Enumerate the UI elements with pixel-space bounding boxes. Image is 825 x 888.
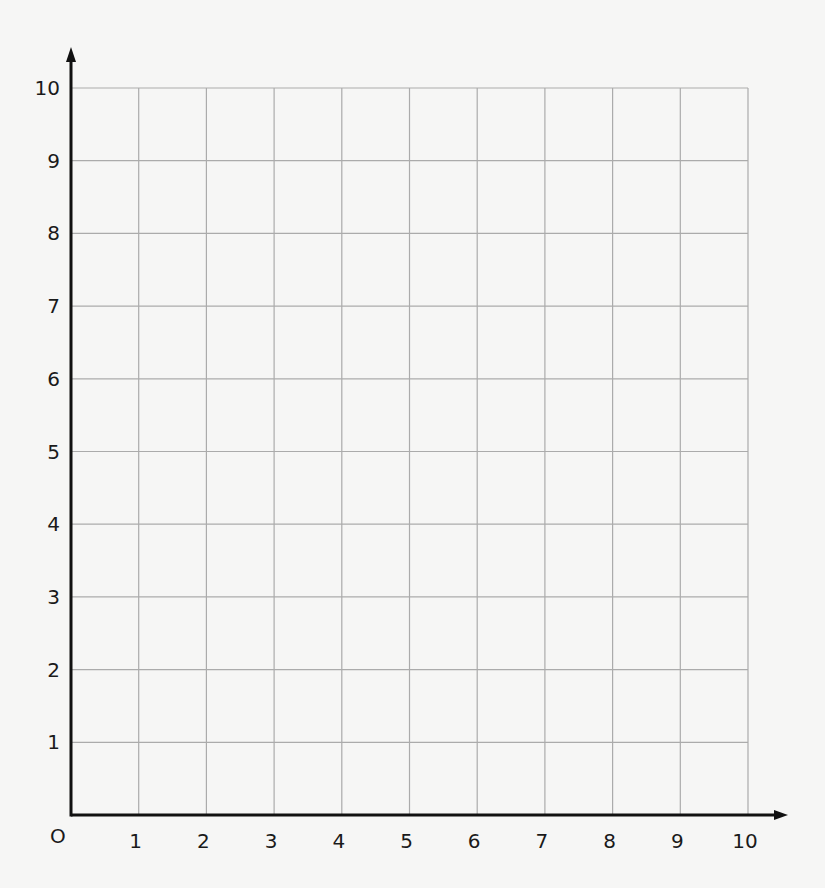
y-tick-label: 5 bbox=[47, 440, 60, 464]
x-tick-label: 1 bbox=[129, 829, 142, 853]
gridlines bbox=[71, 88, 748, 815]
coordinate-grid-figure: 12345678910 12345678910 O bbox=[0, 0, 825, 888]
y-tick-label: 4 bbox=[47, 512, 60, 536]
x-tick-label: 9 bbox=[671, 829, 684, 853]
y-tick-label: 6 bbox=[47, 367, 60, 391]
y-tick-label: 7 bbox=[47, 294, 60, 318]
x-tick-label: 7 bbox=[536, 829, 549, 853]
y-tick-label: 2 bbox=[47, 658, 60, 682]
chart-canvas: 12345678910 12345678910 O bbox=[0, 0, 825, 888]
origin-label: O bbox=[50, 824, 66, 848]
x-tick-label: 8 bbox=[603, 829, 616, 853]
y-tick-label: 8 bbox=[47, 221, 60, 245]
x-tick-label: 10 bbox=[732, 829, 757, 853]
x-tick-label: 4 bbox=[332, 829, 345, 853]
x-tick-labels: 12345678910 bbox=[129, 829, 757, 853]
y-tick-label: 1 bbox=[47, 730, 60, 754]
x-tick-label: 6 bbox=[468, 829, 481, 853]
x-tick-label: 2 bbox=[197, 829, 210, 853]
y-tick-label: 3 bbox=[47, 585, 60, 609]
x-tick-label: 5 bbox=[400, 829, 413, 853]
y-tick-label: 9 bbox=[47, 149, 60, 173]
x-axis-arrow-icon bbox=[774, 810, 788, 820]
y-axis-arrow-icon bbox=[66, 47, 76, 62]
x-tick-label: 3 bbox=[265, 829, 278, 853]
y-tick-labels: 12345678910 bbox=[35, 76, 60, 754]
y-tick-label: 10 bbox=[35, 76, 60, 100]
